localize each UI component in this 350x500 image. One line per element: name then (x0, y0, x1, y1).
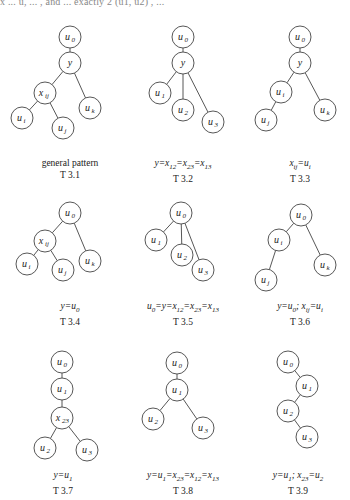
tree-t-3-7: u0u1x23u2u3 (34, 351, 98, 461)
svg-text:x: x (55, 412, 61, 423)
edge-u0-u1 (163, 221, 173, 232)
tree-label: T 3.8 (123, 485, 243, 497)
svg-text:u: u (58, 264, 63, 275)
svg-text:ij: ij (45, 240, 49, 248)
edge-x23-u3 (69, 427, 80, 442)
edge-ui-uj (271, 102, 276, 111)
node-x23: x23 (51, 407, 73, 429)
svg-text:u: u (261, 114, 266, 125)
tree-label: T 3.5 (123, 316, 243, 328)
svg-text:2: 2 (155, 418, 159, 426)
caption-t-3-7: y=u1T 3.7 (3, 469, 123, 497)
svg-text:i: i (24, 117, 26, 125)
node-y: y (172, 52, 194, 74)
edge-u0-xij (52, 221, 62, 233)
svg-text:u: u (65, 207, 70, 218)
node-u0: u0 (290, 204, 312, 226)
edge-y-u1 (167, 72, 177, 85)
node-u3: u3 (192, 259, 214, 281)
node-ui: ui (270, 81, 292, 103)
tree-t-3-3: u0yuiukuj (255, 26, 336, 131)
svg-text:i: i (29, 263, 31, 271)
node-u3: u3 (192, 417, 214, 439)
svg-text:3: 3 (214, 121, 219, 129)
node-uj: uj (255, 109, 277, 131)
svg-text:i: i (281, 239, 283, 247)
svg-text:u: u (172, 384, 177, 395)
svg-text:u: u (155, 87, 160, 98)
edge-u2-u3 (294, 420, 300, 428)
svg-text:2: 2 (185, 109, 189, 117)
node-u0: u0 (59, 26, 81, 48)
node-y: y (289, 52, 311, 74)
svg-text:y: y (180, 57, 186, 68)
svg-text:ij: ij (45, 92, 49, 100)
svg-text:0: 0 (183, 212, 187, 220)
svg-text:u: u (320, 259, 325, 270)
tree-t-3-2: u0yu1u2u3 (149, 26, 224, 133)
node-u0: u0 (289, 26, 311, 48)
svg-text:j: j (267, 119, 270, 127)
svg-text:x: x (38, 87, 44, 98)
tree-label: T 3.7 (3, 485, 123, 497)
edge-u1-u2 (295, 395, 301, 402)
edge-y-uk (305, 73, 320, 101)
svg-text:0: 0 (64, 361, 68, 369)
svg-text:3: 3 (308, 436, 313, 444)
svg-text:j: j (64, 127, 67, 135)
node-u2: u2 (172, 99, 194, 121)
tree-t-3-5: u0u1u2u3 (145, 202, 214, 281)
svg-text:u: u (283, 405, 288, 416)
svg-text:u: u (148, 413, 153, 424)
svg-text:u: u (57, 356, 62, 367)
svg-text:1: 1 (158, 239, 162, 247)
node-u0: u0 (51, 351, 73, 373)
node-u2: u2 (142, 408, 164, 430)
edge-xij-uj (51, 250, 57, 260)
edge-y-uk (74, 73, 85, 98)
tree-label: T 3.3 (240, 173, 350, 185)
tree-t-3-6: u0uiukuj (255, 204, 336, 291)
condition-text: u0=y=x12=x23=x13 (147, 301, 219, 311)
edge-ui-uj (269, 250, 275, 269)
svg-text:3: 3 (204, 269, 209, 277)
svg-text:u: u (65, 31, 70, 42)
svg-text:u: u (208, 116, 213, 127)
svg-text:u: u (85, 102, 90, 113)
node-xij: xij (34, 230, 56, 252)
condition-text: xij=ui (289, 158, 310, 168)
tree-label: T 3.6 (240, 316, 350, 328)
node-u1: u1 (145, 229, 167, 251)
node-u0: u0 (166, 352, 188, 374)
svg-text:u: u (85, 255, 90, 266)
node-ui: ui (11, 107, 33, 129)
svg-text:1: 1 (179, 389, 183, 397)
node-u2: u2 (277, 400, 299, 422)
node-u0: u0 (59, 202, 81, 224)
svg-text:u: u (295, 31, 300, 42)
svg-text:u: u (151, 234, 156, 245)
svg-text:0: 0 (72, 212, 76, 220)
edge-u1-u2 (160, 398, 170, 410)
node-u0: u0 (277, 351, 299, 373)
svg-text:23: 23 (62, 417, 70, 425)
edge-y-xij (52, 71, 63, 84)
svg-text:u: u (17, 112, 22, 123)
node-ui: ui (268, 229, 290, 251)
node-u3: u3 (76, 439, 98, 461)
tree-label: T 3.1 (10, 169, 130, 181)
node-u0: u0 (172, 26, 194, 48)
condition-text: y=x12=x23=x13 (154, 158, 211, 168)
svg-text:u: u (274, 234, 279, 245)
node-uk: uk (314, 254, 336, 276)
caption-t-3-2: y=x12=x23=x13T 3.2 (123, 157, 243, 185)
caption-t-3-1: general patternT 3.1 (10, 157, 130, 181)
node-u2: u2 (34, 437, 56, 459)
svg-text:2: 2 (47, 447, 51, 455)
condition-text: y=u1; x23=u2 (273, 470, 323, 480)
tree-t-3-9: u0u1u2u3 (277, 351, 318, 448)
condition-text: y=u0; xij=ui (277, 301, 323, 311)
svg-text:0: 0 (303, 214, 307, 222)
svg-text:1: 1 (309, 385, 313, 393)
svg-text:1: 1 (162, 92, 166, 100)
